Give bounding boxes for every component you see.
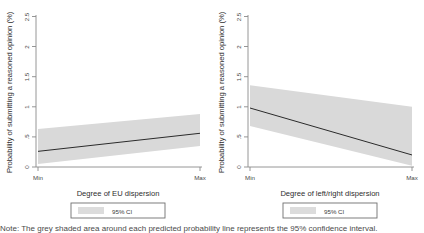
y-tick-label-0: 0 [235, 165, 242, 169]
x-axis-title-left: Degree of EU dispersion [77, 189, 160, 198]
y-axis-title-right: Probability of submitting a reasoned opi… [217, 11, 226, 173]
y-tick-label-2: 2 [235, 45, 242, 49]
ci-band-right [250, 85, 412, 166]
x-axis-title-right: Degree of left/right dispersion [280, 189, 379, 198]
margins-plot-figure: Probability of submitting a reasoned opi… [0, 0, 424, 233]
figure-caption-text: Note: The grey shaded area around each p… [0, 224, 424, 233]
y-tick-label-0_5: .5 [23, 134, 30, 140]
y-tick-label-1: 1 [23, 105, 30, 109]
y-tick-label-1_5: 1.5 [23, 72, 30, 81]
chart-panel-eu-dispersion: Probability of submitting a reasoned opi… [0, 0, 212, 222]
x-tick-label-max-left: Max [194, 174, 207, 181]
y-tick-label-2_5: 2.5 [235, 12, 242, 21]
y-tick-label-2_5: 2.5 [23, 12, 30, 21]
legend-label-ci-left: 95% CI [112, 208, 133, 215]
y-tick-label-2: 2 [23, 45, 30, 49]
y-tick-label-1_5: 1.5 [235, 72, 242, 81]
x-tick-label-min-left: Min [33, 174, 44, 181]
legend-label-ci-right: 95% CI [324, 208, 345, 215]
figure-caption: Note: The grey shaded area around each p… [0, 224, 424, 233]
chart-panel-leftright-dispersion: Probability of submitting a reasoned opi… [212, 0, 424, 222]
y-tick-label-0: 0 [23, 165, 30, 169]
ci-band-left [38, 114, 200, 164]
chart-svg-left: Probability of submitting a reasoned opi… [0, 0, 212, 222]
y-axis-title-left: Probability of submitting a reasoned opi… [5, 11, 14, 173]
y-tick-label-0_5: .5 [235, 134, 242, 140]
y-tick-label-1: 1 [235, 105, 242, 109]
x-tick-label-max-right: Max [406, 174, 419, 181]
legend-swatch-ci-right [290, 207, 316, 214]
legend-swatch-ci-left [78, 207, 104, 214]
x-tick-label-min-right: Min [245, 174, 256, 181]
chart-svg-right: Probability of submitting a reasoned opi… [212, 0, 424, 222]
